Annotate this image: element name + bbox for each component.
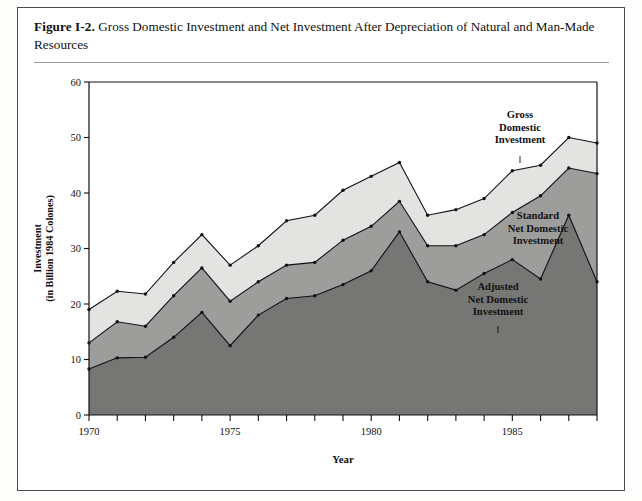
y-axis-title-line2: (in Billion 1984 Colones) bbox=[44, 195, 56, 302]
x-tick-label: 1970 bbox=[79, 426, 100, 437]
series-annotation-line: Adjusted bbox=[477, 281, 518, 292]
data-point bbox=[482, 233, 485, 236]
figure-number: Figure I-2. bbox=[34, 19, 95, 34]
data-point bbox=[257, 280, 260, 283]
data-point bbox=[454, 288, 457, 291]
data-point bbox=[313, 214, 316, 217]
data-point bbox=[313, 261, 316, 264]
area-chart: 01020304050601970197519801985 GrossDomes… bbox=[17, 62, 625, 482]
series-annotation-0: GrossDomesticInvestment bbox=[495, 109, 546, 145]
data-point bbox=[567, 136, 570, 139]
data-point bbox=[539, 277, 542, 280]
series-annotation-line: Gross bbox=[507, 109, 533, 120]
series-annotation-line: Net Domestic bbox=[508, 223, 569, 234]
plot-areas bbox=[89, 138, 597, 416]
data-point bbox=[341, 283, 344, 286]
data-point bbox=[257, 313, 260, 316]
data-point bbox=[398, 200, 401, 203]
y-tick-label: 30 bbox=[71, 243, 82, 254]
data-point bbox=[454, 244, 457, 247]
figure-caption: Figure I-2. Gross Domestic Investment an… bbox=[34, 18, 609, 54]
data-point bbox=[398, 161, 401, 164]
series-annotation-line: Investment bbox=[495, 134, 546, 145]
data-point bbox=[228, 344, 231, 347]
y-tick-label: 0 bbox=[76, 410, 81, 421]
data-point bbox=[172, 294, 175, 297]
data-point bbox=[341, 238, 344, 241]
data-point bbox=[482, 197, 485, 200]
data-point bbox=[200, 266, 203, 269]
data-point bbox=[144, 325, 147, 328]
data-point bbox=[285, 219, 288, 222]
data-point bbox=[370, 175, 373, 178]
data-point bbox=[567, 214, 570, 217]
data-point bbox=[172, 261, 175, 264]
x-tick-label: 1980 bbox=[361, 426, 382, 437]
data-point bbox=[144, 292, 147, 295]
data-point bbox=[426, 280, 429, 283]
figure-title: Gross Domestic Investment and Net Invest… bbox=[34, 19, 594, 52]
series-annotation-line: Domestic bbox=[499, 122, 541, 133]
y-tick-label: 60 bbox=[71, 77, 82, 88]
x-tick-label: 1975 bbox=[220, 426, 241, 437]
data-point bbox=[200, 233, 203, 236]
data-point bbox=[285, 297, 288, 300]
data-point bbox=[370, 269, 373, 272]
x-axis-title: Year bbox=[332, 453, 354, 465]
data-point bbox=[398, 230, 401, 233]
data-point bbox=[200, 311, 203, 314]
data-point bbox=[285, 263, 288, 266]
data-point bbox=[426, 244, 429, 247]
y-tick-label: 50 bbox=[71, 132, 82, 143]
data-point bbox=[454, 208, 457, 211]
series-annotation-line: Investment bbox=[513, 235, 564, 246]
data-point bbox=[116, 356, 119, 359]
y-tick-label: 40 bbox=[71, 188, 82, 199]
figure-page: Figure I-2. Gross Domestic Investment an… bbox=[0, 0, 642, 501]
data-point bbox=[511, 169, 514, 172]
data-point bbox=[539, 164, 542, 167]
chart-container: 01020304050601970197519801985 GrossDomes… bbox=[17, 62, 625, 482]
series-annotation-line: Standard bbox=[517, 210, 559, 221]
data-point bbox=[116, 290, 119, 293]
data-point bbox=[370, 225, 373, 228]
y-axis-title: Investment(in Billion 1984 Colones) bbox=[32, 195, 56, 302]
data-point bbox=[313, 294, 316, 297]
data-point bbox=[116, 320, 119, 323]
series-annotation-line: Investment bbox=[473, 306, 524, 317]
data-point bbox=[172, 336, 175, 339]
y-axis-title-line1: Investment bbox=[32, 224, 43, 273]
y-tick-label: 10 bbox=[71, 354, 82, 365]
data-point bbox=[341, 189, 344, 192]
data-point bbox=[567, 166, 570, 169]
y-tick-label: 20 bbox=[71, 299, 82, 310]
data-point bbox=[511, 211, 514, 214]
data-point bbox=[228, 300, 231, 303]
data-point bbox=[426, 214, 429, 217]
x-tick-label: 1985 bbox=[502, 426, 523, 437]
series-annotation-line: Net Domestic bbox=[468, 294, 529, 305]
data-point bbox=[511, 258, 514, 261]
data-point bbox=[539, 194, 542, 197]
data-point bbox=[228, 263, 231, 266]
data-point bbox=[144, 356, 147, 359]
data-point bbox=[257, 244, 260, 247]
data-point bbox=[482, 272, 485, 275]
